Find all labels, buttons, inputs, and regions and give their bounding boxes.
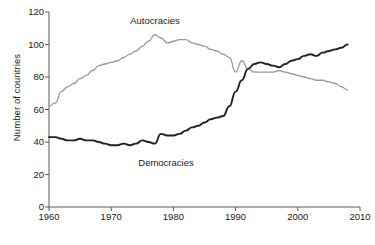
chart-container: Number of countries 020406080100120 1960… (0, 0, 375, 245)
series-line-democracies (49, 45, 348, 146)
series-line-autocracies (49, 35, 348, 107)
y-axis-ticks (45, 12, 49, 207)
series-label-democracies: Democracies (138, 158, 193, 168)
series-label-autocracies: Autocracies (130, 16, 180, 26)
plot-area (0, 0, 375, 245)
x-axis-ticks (49, 207, 360, 211)
axis-lines (49, 12, 360, 207)
